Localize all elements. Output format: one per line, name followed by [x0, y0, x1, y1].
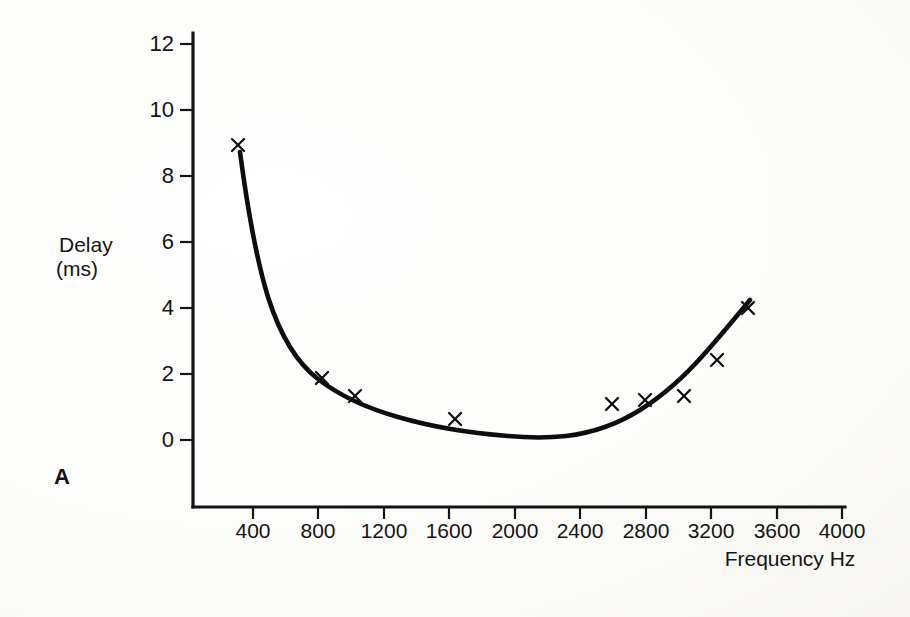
x-tick-label-2000: 2000 [492, 519, 539, 542]
y-axis-tick-labels: 12 10 8 6 4 2 0 [150, 31, 174, 452]
y-axis-title-line2: (ms) [56, 257, 98, 280]
y-tick-label-12: 12 [150, 31, 174, 56]
data-marker [711, 354, 723, 366]
x-tick-label-3600: 3600 [754, 519, 801, 542]
x-axis-ticks [253, 507, 842, 519]
x-tick-label-400: 400 [235, 519, 270, 542]
y-tick-label-6: 6 [162, 229, 174, 254]
data-marker [678, 390, 690, 402]
fitted-curve-group [240, 152, 750, 438]
y-axis-title-line1: Delay [59, 233, 113, 256]
data-marker [606, 398, 618, 410]
panel-label-a: A [54, 464, 70, 489]
x-axis-tick-labels: 400 800 1200 1600 2000 2400 2800 3200 36… [235, 519, 865, 542]
data-marker [232, 139, 244, 151]
data-marker [449, 413, 461, 425]
x-tick-label-4000: 4000 [819, 519, 866, 542]
x-tick-label-3200: 3200 [688, 519, 735, 542]
y-tick-label-8: 8 [162, 163, 174, 188]
y-tick-label-0: 0 [162, 427, 174, 452]
chart-canvas: 12 10 8 6 4 2 0 400 800 1200 1600 2000 [0, 0, 910, 617]
x-tick-label-1600: 1600 [426, 519, 473, 542]
fitted-curve [240, 152, 750, 438]
x-axis-title: Frequency Hz [725, 547, 856, 570]
figure-root: 12 10 8 6 4 2 0 400 800 1200 1600 2000 [0, 0, 910, 617]
x-tick-label-2400: 2400 [557, 519, 604, 542]
y-tick-label-2: 2 [162, 361, 174, 386]
y-tick-label-4: 4 [162, 295, 174, 320]
y-axis-ticks [180, 44, 193, 440]
x-tick-label-1200: 1200 [361, 519, 408, 542]
y-tick-label-10: 10 [150, 97, 174, 122]
x-tick-label-2800: 2800 [623, 519, 670, 542]
x-tick-label-800: 800 [300, 519, 335, 542]
